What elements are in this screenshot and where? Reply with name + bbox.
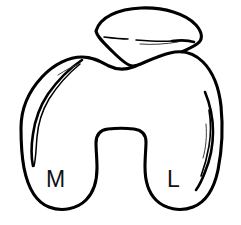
lateral-label: L [167,166,180,192]
medial-label: M [46,166,66,192]
figure-canvas: M L [0,0,241,225]
anatomical-figure: M L [0,0,241,225]
